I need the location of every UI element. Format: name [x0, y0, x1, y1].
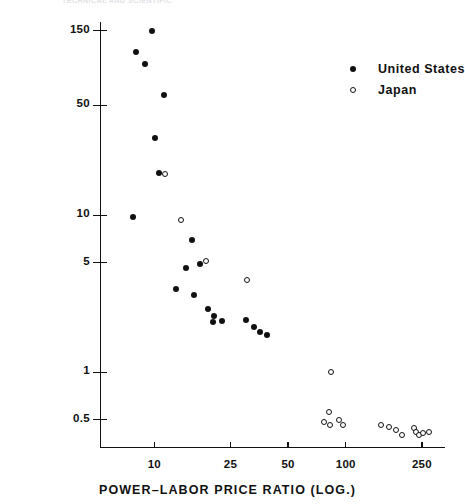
data-point-japan	[420, 430, 426, 436]
data-point-japan	[328, 369, 334, 375]
x-tick-mark	[154, 442, 155, 448]
y-axis-line	[100, 22, 101, 448]
y-tick-mark	[93, 262, 100, 263]
y-tick-mark	[93, 105, 100, 106]
data-point-united-states	[149, 28, 155, 34]
data-point-japan	[386, 424, 392, 430]
y-tick-mark	[93, 30, 100, 31]
legend-item-united-states: United States	[345, 58, 465, 79]
data-point-united-states	[183, 265, 189, 271]
legend: United States Japan	[345, 58, 465, 100]
data-point-united-states	[161, 92, 167, 98]
data-point-united-states	[142, 61, 148, 67]
y-tick-mark	[93, 372, 100, 373]
x-axis-title: POWER–LABOR PRICE RATIO (LOG.)	[0, 483, 455, 497]
y-tick-mark-inner	[101, 262, 107, 263]
data-point-united-states	[211, 313, 217, 319]
data-point-japan	[244, 277, 250, 283]
y-tick-label: 10	[77, 207, 90, 219]
legend-label-japan: Japan	[378, 83, 417, 97]
y-tick-label: 1	[83, 364, 90, 376]
x-tick-label: 25	[224, 458, 237, 470]
y-tick-label: 50	[77, 97, 90, 109]
data-point-japan	[203, 258, 209, 264]
y-tick-mark-inner	[101, 215, 107, 216]
data-point-united-states	[205, 306, 211, 312]
data-point-united-states	[257, 329, 263, 335]
x-tick-label: 250	[412, 458, 432, 470]
data-point-united-states	[130, 214, 136, 220]
y-tick-mark-inner	[101, 105, 107, 106]
x-tick-mark	[345, 442, 346, 448]
x-axis-line	[100, 447, 445, 448]
data-point-united-states	[189, 237, 195, 243]
y-tick-mark	[93, 419, 100, 420]
data-point-united-states	[152, 135, 158, 141]
data-point-japan	[162, 171, 168, 177]
japan-marker-icon	[345, 87, 361, 93]
data-point-united-states	[210, 319, 216, 325]
x-tick-mark	[230, 442, 231, 448]
data-point-united-states	[173, 286, 179, 292]
data-point-japan	[327, 422, 333, 428]
y-tick-label: 150	[70, 23, 90, 35]
y-tick-mark	[93, 215, 100, 216]
us-marker-icon	[345, 66, 361, 72]
y-tick-mark-inner	[101, 372, 107, 373]
legend-item-japan: Japan	[345, 79, 465, 100]
y-axis-title: FARM DRAFT POWER PER MALE WORKER IN HORS…	[68, 0, 108, 22]
data-point-japan	[326, 409, 332, 415]
y-tick-label: 5	[83, 255, 90, 267]
data-point-united-states	[133, 49, 139, 55]
data-point-japan	[178, 217, 184, 223]
data-point-japan	[426, 429, 432, 435]
legend-label-united-states: United States	[378, 62, 465, 76]
data-point-united-states	[251, 324, 257, 330]
y-tick-label: 0.5	[73, 412, 90, 424]
data-point-japan	[393, 427, 399, 433]
y-tick-mark-inner	[101, 30, 107, 31]
data-point-united-states	[219, 318, 225, 324]
data-point-united-states	[264, 332, 270, 338]
plot-area: 0.5151050150 102550100250 United States …	[100, 22, 445, 448]
data-point-japan	[399, 432, 405, 438]
data-point-japan	[340, 422, 346, 428]
x-tick-mark	[421, 442, 422, 448]
data-point-united-states	[191, 292, 197, 298]
data-point-united-states	[243, 317, 249, 323]
x-tick-mark	[287, 442, 288, 448]
x-tick-label: 100	[336, 458, 356, 470]
x-tick-label: 50	[281, 458, 294, 470]
x-tick-label: 10	[148, 458, 161, 470]
y-tick-mark-inner	[101, 419, 107, 420]
data-point-japan	[378, 422, 384, 428]
